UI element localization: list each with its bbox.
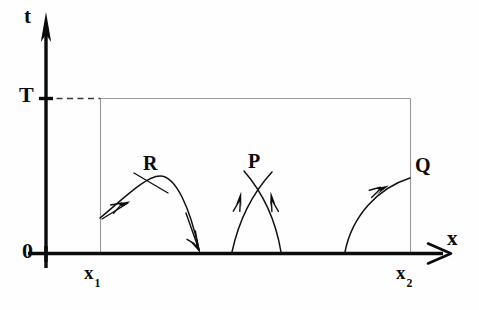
right-boundary-label-base: x (396, 262, 406, 283)
right-boundary-label: x2 (396, 263, 411, 287)
worldline-P (232, 171, 281, 252)
worldline-R-arrow-end (186, 213, 200, 253)
spacetime-diagram: .axisline { stroke: #0b0b0b; stroke-widt… (0, 0, 479, 310)
worldline-R-arrow-start (102, 201, 131, 219)
left-boundary-label: x1 (84, 263, 99, 287)
x-axis-label: x (447, 228, 458, 249)
right-boundary-label-subscript: 2 (407, 277, 413, 290)
worldline-P-arrow-left (233, 192, 241, 212)
left-boundary-label-base: x (84, 262, 94, 283)
worldline-P-arrow-right (270, 192, 278, 212)
t-axis-label: t (24, 6, 31, 27)
left-boundary-label-subscript: 1 (95, 277, 101, 290)
worldline-Q-arrow (369, 186, 389, 198)
region-rectangle (101, 99, 411, 254)
worldline-Q (345, 178, 410, 252)
x-axis (28, 244, 451, 264)
worldline-R (100, 173, 200, 253)
origin-label: 0 (22, 240, 33, 262)
curve-label-P: P (248, 151, 260, 171)
curve-label-Q: Q (415, 155, 431, 175)
t-axis (41, 12, 51, 268)
curve-label-R: R (143, 153, 157, 173)
t-level-label: T (19, 84, 34, 106)
